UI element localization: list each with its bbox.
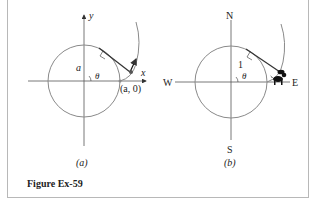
south-label: S xyxy=(227,144,233,155)
theta-label-b: θ xyxy=(242,71,247,81)
theta-label-a: θ xyxy=(95,71,100,81)
figure-caption: Figure Ex-59 xyxy=(27,178,83,189)
west-label: W xyxy=(163,77,173,88)
panel-b: N S E W 1 θ (b) xyxy=(163,10,298,169)
dog-head-icon xyxy=(278,70,285,75)
radius-label-a: a xyxy=(76,62,81,73)
figure-canvas: y x a θ (a, 0) (a) N S E W 1 θ (b) xyxy=(0,0,318,201)
radius-label-b: 1 xyxy=(238,59,243,70)
tangent-line-b xyxy=(246,49,280,72)
sublabel-b: (b) xyxy=(224,157,236,169)
point-marker xyxy=(129,70,133,74)
north-label: N xyxy=(226,10,233,21)
y-axis-label: y xyxy=(88,10,94,21)
x-axis-label: x xyxy=(140,67,146,78)
point-label: (a, 0) xyxy=(120,83,141,95)
east-label: E xyxy=(292,77,298,88)
sublabel-a: (a) xyxy=(76,157,88,169)
angle-arc-a xyxy=(89,76,91,81)
panel-a: y x a θ (a, 0) (a) xyxy=(28,10,146,169)
angle-arc-b xyxy=(236,77,238,82)
tangent-line-a xyxy=(99,48,130,72)
